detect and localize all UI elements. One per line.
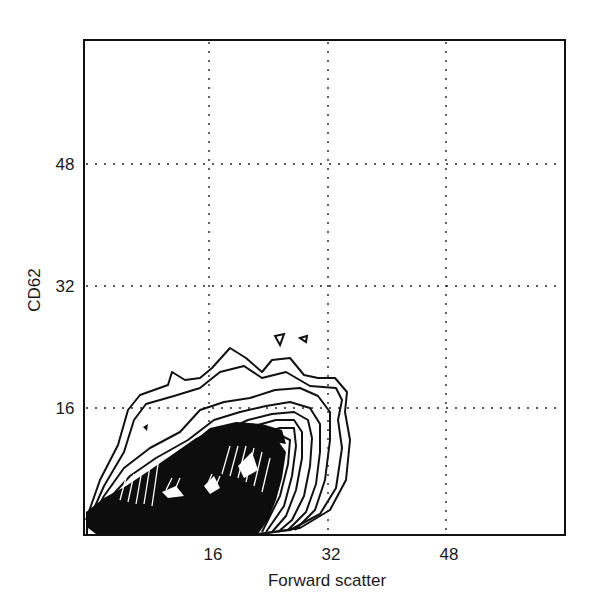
contour-islands: [275, 334, 307, 345]
gridlines: [86, 42, 563, 533]
ytick-32: 32: [56, 277, 75, 296]
x-axis-label: Forward scatter: [268, 571, 386, 590]
contour-chart: 48 32 16 16 32 48 Forward scatter CD62: [0, 0, 596, 611]
ytick-16: 16: [56, 399, 75, 418]
ytick-48: 48: [56, 155, 75, 174]
y-axis-label: CD62: [25, 268, 44, 311]
xtick-32: 32: [322, 545, 341, 564]
contour-dot: [143, 424, 148, 431]
xtick-48: 48: [440, 545, 459, 564]
xtick-16: 16: [204, 545, 223, 564]
plot-frame: [84, 40, 565, 535]
